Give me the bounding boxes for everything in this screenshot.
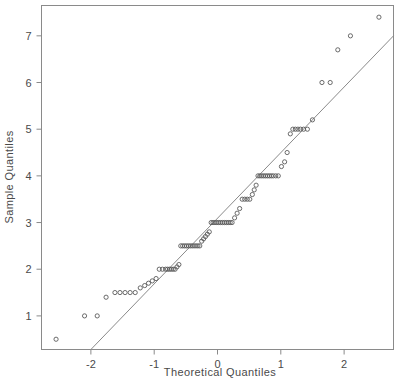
- data-point: [254, 183, 258, 187]
- data-point: [82, 314, 86, 318]
- data-point: [283, 160, 287, 164]
- y-tick-label: 7: [25, 30, 31, 42]
- x-tick-label: -1: [149, 358, 159, 370]
- data-point: [104, 295, 108, 299]
- y-axis-title: Sample Quantiles: [3, 130, 15, 223]
- qq-plot-figure: -2-1012 1234567 Theoretical Quantiles Sa…: [0, 0, 399, 383]
- data-point: [138, 286, 142, 290]
- data-point: [123, 290, 127, 294]
- data-point: [320, 80, 324, 84]
- reference-line: [91, 36, 394, 350]
- data-point: [235, 211, 239, 215]
- data-point: [377, 15, 381, 19]
- data-point: [133, 290, 137, 294]
- y-axis-ticks: [37, 36, 42, 316]
- y-tick-label: 2: [25, 263, 31, 275]
- data-point: [232, 216, 236, 220]
- data-point: [95, 314, 99, 318]
- y-tick-label: 4: [25, 170, 31, 182]
- data-point: [113, 290, 117, 294]
- data-point: [238, 206, 242, 210]
- data-point: [348, 34, 352, 38]
- x-tick-label: -2: [86, 358, 96, 370]
- y-tick-label: 1: [25, 310, 31, 322]
- data-point: [250, 192, 254, 196]
- y-axis-tick-labels: 1234567: [25, 30, 31, 322]
- data-points: [54, 15, 381, 341]
- data-point: [279, 164, 283, 168]
- data-point: [285, 150, 289, 154]
- x-axis-title: Theoretical Quantiles: [164, 366, 276, 378]
- y-tick-label: 3: [25, 217, 31, 229]
- qq-plot-canvas: -2-1012 1234567 Theoretical Quantiles Sa…: [0, 0, 399, 383]
- y-tick-label: 6: [25, 77, 31, 89]
- data-point: [128, 290, 132, 294]
- y-tick-label: 5: [25, 123, 31, 135]
- x-axis-ticks: [91, 350, 344, 355]
- x-tick-label: 1: [278, 358, 284, 370]
- data-point: [54, 337, 58, 341]
- data-point: [328, 80, 332, 84]
- data-point: [118, 290, 122, 294]
- data-point: [154, 276, 158, 280]
- data-point: [336, 48, 340, 52]
- data-point: [288, 132, 292, 136]
- qq-reference-line: [91, 36, 394, 350]
- data-point: [252, 188, 256, 192]
- x-tick-label: 2: [341, 358, 347, 370]
- plot-frame: [42, 6, 394, 350]
